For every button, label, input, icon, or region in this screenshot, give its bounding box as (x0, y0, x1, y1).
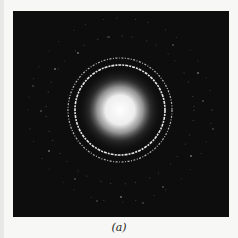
diffraction-pattern-image (13, 11, 229, 217)
central-beam-glow (78, 68, 162, 152)
page-edge (0, 0, 4, 238)
figure-caption: (a) (0, 221, 238, 234)
diffraction-pattern-svg (13, 11, 229, 217)
